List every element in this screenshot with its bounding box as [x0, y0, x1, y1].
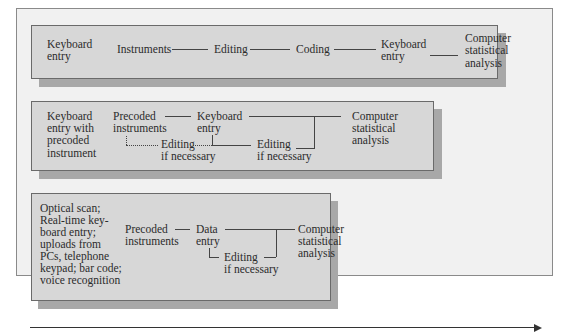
- row1-step-keyboard-line2: entry: [381, 50, 405, 63]
- row1-step-coding: Coding: [296, 43, 330, 56]
- row1-step-analysis-line3: analysis: [465, 57, 502, 70]
- row1-step-instruments: Instruments: [117, 43, 171, 56]
- row1-connector-3: [334, 49, 376, 50]
- row3-step-analysis-line1: Computer: [298, 223, 344, 236]
- row2-method-line2: entry with: [47, 122, 94, 135]
- row3-method-line3: board entry;: [40, 226, 96, 239]
- row1-connector-4: [430, 55, 458, 56]
- row2-return-v: [212, 135, 213, 145]
- row2-connector-1: [165, 116, 191, 117]
- row3-branch-h: [209, 257, 219, 258]
- row3-step-analysis-line3: analysis: [298, 247, 335, 260]
- row2-step-precoded-line1: Precoded: [113, 110, 156, 123]
- row1-connector-1: [172, 49, 208, 50]
- row2-step-editing2-line1: Editing: [257, 138, 291, 151]
- row3-connector-1: [175, 229, 190, 230]
- row2-step-editing1-line2: if necessary: [161, 150, 216, 163]
- row3-step-analysis-line2: statistical: [298, 235, 341, 248]
- row3-method-line5: PCs, telephone: [40, 250, 109, 263]
- row1-step-analysis-line2: statistical: [465, 44, 508, 57]
- row2-step-keyboard-line2: entry: [197, 122, 221, 135]
- row1-step-keyboard-line1: Keyboard: [381, 38, 426, 51]
- row2-return-h: [212, 145, 251, 146]
- row3-step-editing-line2: if necessary: [224, 263, 279, 276]
- row2-step-analysis-line3: analysis: [352, 134, 389, 147]
- row3-step-editing-line1: Editing: [224, 251, 258, 264]
- row2-step-keyboard-line1: Keyboard: [197, 110, 242, 123]
- row1-box: [31, 25, 498, 79]
- row1-method-line1: Keyboard: [47, 38, 92, 51]
- right-arrow-icon: [534, 324, 542, 332]
- row3-step-data-line2: entry: [196, 235, 220, 248]
- row1-step-editing: Editing: [214, 43, 248, 56]
- row2-dotted-branch-h: [126, 145, 158, 146]
- row1-step-analysis-line1: Computer: [465, 32, 511, 45]
- row2-step-precoded-line2: instruments: [113, 122, 167, 135]
- row3-branch-v: [209, 248, 210, 257]
- row2-step-editing2-line2: if necessary: [257, 150, 312, 163]
- row2-method-line1: Keyboard: [47, 110, 92, 123]
- row2-dotted-return: [193, 145, 212, 146]
- row3-step-data-line1: Data: [196, 223, 218, 236]
- row2-step-editing1-line1: Editing: [161, 138, 195, 151]
- row3-method-line6: keypad; bar code;: [40, 262, 122, 275]
- row3-method-line7: voice recognition: [40, 274, 120, 287]
- row2-method-line4: instrument: [47, 147, 96, 160]
- row2-connector-3: [314, 116, 315, 148]
- row2-dotted-branch-v: [126, 136, 127, 145]
- row3-connector-4: [264, 257, 276, 258]
- row2-connector-4: [296, 148, 315, 149]
- row3-connector-3: [276, 229, 277, 257]
- row3-method-line1: Optical scan;: [40, 202, 100, 215]
- row3-step-precoded-line1: Precoded: [125, 223, 168, 236]
- row3-method-line2: Real-time key-: [40, 214, 109, 227]
- row3-connector-2: [225, 229, 295, 230]
- row2-method-line3: precoded: [47, 134, 89, 147]
- row2-step-analysis-line1: Computer: [352, 110, 398, 123]
- row3-method-line4: uploads from: [40, 238, 101, 251]
- timeline-arrow-line: [30, 327, 535, 328]
- row2-connector-2: [249, 116, 341, 117]
- row1-method-line2: entry: [47, 50, 71, 63]
- row2-step-analysis-line2: statistical: [352, 122, 395, 135]
- row3-step-precoded-line2: instruments: [125, 235, 179, 248]
- row1-connector-2: [250, 49, 290, 50]
